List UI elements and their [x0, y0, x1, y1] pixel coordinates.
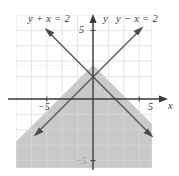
y-tick-label-minus-5: −5 — [75, 155, 87, 166]
shaded-solution-region — [16, 65, 152, 168]
y-axis-label: y — [103, 13, 108, 24]
equation-label-left: y + x = 2 — [28, 13, 70, 24]
x-tick-label-minus-5: −5 — [38, 101, 50, 112]
x-tick-label-5: 5 — [148, 101, 153, 112]
x-axis-label: x — [168, 100, 173, 111]
coordinate-plane — [0, 0, 179, 176]
graph-figure: y + x = 2 y − x = 2 y x 5 −5 −5 5 — [0, 0, 179, 176]
equation-label-right: y − x = 2 — [116, 13, 158, 24]
y-tick-label-5: 5 — [79, 24, 84, 35]
